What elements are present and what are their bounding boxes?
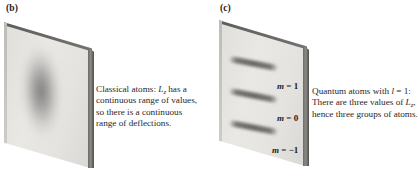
band-label-m-zero-equals: = — [284, 113, 294, 123]
quantum-band-m-minus-1 — [229, 120, 277, 135]
band-label-m-minus-1-symbol: m — [272, 145, 279, 155]
caption-b: Classical atoms: Lz has a continuous ran… — [96, 84, 202, 130]
band-label-m-plus-1-symbol: m — [277, 81, 284, 91]
panel-b-label: (b) — [6, 3, 18, 13]
band-label-m-minus-1-equals: = — [279, 145, 289, 155]
band-label-m-minus-1: m = −1 — [272, 145, 298, 155]
plate-left-edge-b — [4, 20, 7, 168]
smear-clip-b — [4, 20, 90, 168]
plate-left-edge-c — [219, 18, 222, 166]
detector-plate-c: m = 1 m = 0 m = −1 — [219, 18, 311, 168]
plate-right-edge-c — [303, 18, 309, 166]
quantum-band-m-zero — [229, 88, 277, 103]
continuous-deflection-smear — [18, 28, 64, 155]
band-label-m-plus-1-value: 1 — [294, 81, 299, 91]
band-label-m-zero: m = 0 — [277, 113, 298, 123]
panel-c-label: (c) — [220, 3, 231, 13]
quantum-band-m-plus-1 — [229, 56, 277, 71]
plate-right-edge-b — [88, 20, 94, 168]
caption-c-line1: Quantum atoms with — [312, 86, 391, 96]
panel-c: (c) m = 1 m = 0 m = −1 Quantum atoms wit… — [207, 0, 414, 173]
band-label-m-plus-1: m = 1 — [277, 81, 298, 91]
caption-c: Quantum atoms with l = 1: There are thre… — [312, 86, 418, 120]
detector-plate-b — [4, 20, 96, 170]
bands-clip-c — [219, 18, 305, 166]
caption-b-prefix: Classical atoms: — [96, 84, 158, 94]
band-label-m-minus-1-value: −1 — [289, 145, 299, 155]
band-label-m-zero-symbol: m — [277, 113, 284, 123]
panel-b: (b) Classical atoms: Lz has a continuous… — [0, 0, 207, 173]
band-label-m-zero-value: 0 — [294, 113, 299, 123]
band-label-m-plus-1-equals: = — [284, 81, 294, 91]
